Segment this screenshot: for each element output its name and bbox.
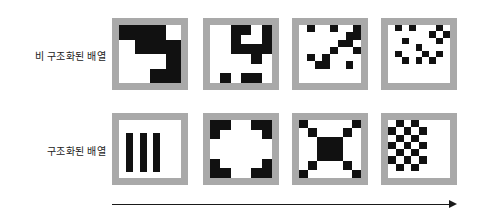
pattern-cell xyxy=(388,135,396,142)
pattern-cell xyxy=(262,25,272,35)
pattern-cell xyxy=(411,142,419,149)
pattern-cell xyxy=(322,61,330,68)
pattern-cell xyxy=(315,69,323,76)
pattern-cell xyxy=(388,156,396,163)
pattern-cell xyxy=(435,142,443,149)
pattern-cell xyxy=(317,128,326,136)
pattern-cell xyxy=(220,159,230,169)
pattern-cell xyxy=(231,149,241,159)
pattern-cell xyxy=(330,40,338,47)
pattern-cell xyxy=(307,69,315,76)
pattern-cell xyxy=(308,137,317,145)
pattern-cell xyxy=(427,149,435,156)
pattern-cell xyxy=(126,172,133,178)
pattern-cell xyxy=(334,128,343,136)
pattern-cell xyxy=(330,54,338,61)
pattern-cell xyxy=(262,120,272,130)
pattern-cell xyxy=(346,32,354,39)
row-label-unstructured: 비 구조화된 배열 xyxy=(8,48,106,63)
pattern-cell xyxy=(315,47,323,54)
pattern-cell xyxy=(220,130,230,140)
pattern-cell xyxy=(411,156,419,163)
pattern-cell xyxy=(153,172,160,178)
pattern-cell xyxy=(436,77,443,83)
pattern-cell xyxy=(241,35,251,45)
pattern-cell xyxy=(343,153,352,161)
pattern-cell xyxy=(210,168,220,178)
row-label-structured: 구조화된 배열 xyxy=(8,143,106,158)
pattern-cell xyxy=(338,76,346,83)
pattern-cell xyxy=(419,156,427,163)
pattern-cell xyxy=(315,76,323,83)
pattern-cell xyxy=(166,54,182,69)
pattern-cell xyxy=(307,76,315,83)
pattern-cell xyxy=(343,137,352,145)
pattern-cell xyxy=(262,130,272,140)
pattern-cell xyxy=(338,47,346,54)
pattern-cell xyxy=(135,69,151,84)
pattern-cell xyxy=(404,149,412,156)
pattern-cell xyxy=(220,149,230,159)
pattern-cell xyxy=(299,61,307,68)
pattern-cell xyxy=(231,73,241,83)
pattern-cell xyxy=(307,47,315,54)
pattern-cell xyxy=(427,135,435,142)
pattern-cell xyxy=(346,69,354,76)
pattern-cell xyxy=(210,120,220,130)
pattern-grid xyxy=(388,120,450,178)
pattern-cell xyxy=(315,40,323,47)
pattern-cell xyxy=(299,137,308,145)
pattern-cell xyxy=(299,153,308,161)
pattern-tile-r0-c3 xyxy=(381,18,457,90)
pattern-cell xyxy=(435,135,443,142)
pattern-tile-r1-c3 xyxy=(381,113,457,185)
pattern-cell xyxy=(346,47,354,54)
pattern-cell xyxy=(299,76,307,83)
pattern-grid xyxy=(388,25,450,83)
pattern-cell xyxy=(210,149,220,159)
pattern-cell xyxy=(167,172,174,178)
pattern-cell xyxy=(315,54,323,61)
pattern-cell xyxy=(396,120,404,127)
pattern-cell xyxy=(326,170,335,178)
pattern-tile-r0-c0 xyxy=(112,18,188,90)
pattern-cell xyxy=(404,171,412,178)
pattern-cell xyxy=(334,137,343,145)
pattern-cell xyxy=(419,120,427,127)
pattern-cell xyxy=(395,77,402,83)
pattern-tile-r0-c1 xyxy=(203,18,279,90)
pattern-cell xyxy=(251,25,261,35)
pattern-cell xyxy=(251,54,261,64)
pattern-cell xyxy=(262,168,272,178)
pattern-cell xyxy=(353,69,361,76)
pattern-cell xyxy=(299,47,307,54)
pattern-cell xyxy=(166,69,182,84)
pattern-cell xyxy=(326,153,335,161)
pattern-cell xyxy=(352,120,361,128)
pattern-cell xyxy=(119,40,135,55)
pattern-cell xyxy=(427,171,435,178)
pattern-cell xyxy=(353,40,361,47)
pattern-cell xyxy=(231,139,241,149)
pattern-cell xyxy=(251,64,261,74)
pattern-cell xyxy=(299,25,307,32)
pattern-cell xyxy=(220,35,230,45)
pattern-cell xyxy=(330,76,338,83)
pattern-cell xyxy=(241,25,251,35)
pattern-tile-r1-c2 xyxy=(292,113,368,185)
pattern-cell xyxy=(251,44,261,54)
pattern-cell xyxy=(427,127,435,134)
pattern-cell xyxy=(352,128,361,136)
pattern-cell xyxy=(443,77,450,83)
pattern-cell xyxy=(308,170,317,178)
pattern-cell xyxy=(330,47,338,54)
pattern-cell xyxy=(396,156,404,163)
pattern-cell xyxy=(210,159,220,169)
pattern-cell xyxy=(231,130,241,140)
pattern-cell xyxy=(150,69,166,84)
pattern-cell xyxy=(396,135,404,142)
pattern-cell xyxy=(411,127,419,134)
pattern-cell xyxy=(210,139,220,149)
pattern-cell xyxy=(388,164,396,171)
pattern-cell xyxy=(411,164,419,171)
